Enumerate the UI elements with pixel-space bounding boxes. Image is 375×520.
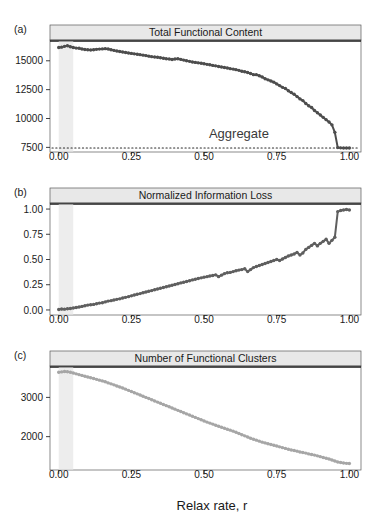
y-axis-tick-label: 1.00 — [24, 204, 44, 215]
panel-a: (a)Total Functional Content1500012500100… — [14, 23, 361, 162]
x-axis-tick-label: 0.75 — [267, 469, 287, 480]
multi-panel-figure: (a)Total Functional Content1500012500100… — [0, 0, 375, 520]
panel-strip-title: Normalized Information Loss — [139, 189, 273, 201]
x-axis-title: Relax rate, r — [177, 498, 248, 513]
y-axis-tick-label: 15000 — [15, 55, 43, 66]
y-axis-tick-label: 0.25 — [24, 279, 44, 290]
y-axis-tick-label: 10000 — [15, 113, 43, 124]
y-axis-tick-label: 0.00 — [24, 305, 44, 316]
x-axis-tick-label: 0.00 — [49, 314, 69, 325]
panel-letter: (b) — [14, 186, 27, 198]
highlight-band — [59, 205, 74, 315]
x-axis-tick-label: 0.50 — [194, 314, 214, 325]
x-axis-tick-label: 0.25 — [122, 151, 142, 162]
plot-annotation: Aggregate — [209, 126, 269, 141]
x-axis-tick-label: 1.00 — [340, 151, 360, 162]
x-axis-tick-label: 0.00 — [49, 469, 69, 480]
x-axis-tick-label: 1.00 — [340, 314, 360, 325]
y-axis-tick-label: 7500 — [21, 142, 44, 153]
panel-b: (b)Normalized Information Loss1.000.750.… — [14, 186, 361, 325]
panel-strip-title: Total Functional Content — [149, 26, 262, 38]
highlight-band — [59, 368, 74, 470]
panels-root: (a)Total Functional Content1500012500100… — [14, 23, 361, 480]
x-axis-tick-label: 0.50 — [194, 469, 214, 480]
x-axis-tick-label: 0.25 — [122, 314, 142, 325]
x-axis-tick-label: 0.25 — [122, 469, 142, 480]
x-axis-tick-label: 0.00 — [49, 151, 69, 162]
y-axis-tick-label: 2000 — [21, 431, 44, 442]
x-axis-tick-label: 1.00 — [340, 469, 360, 480]
y-axis-tick-label: 0.75 — [24, 229, 44, 240]
panel-c: (c)Number of Functional Clusters30002000… — [14, 349, 361, 480]
y-axis-tick-label: 3000 — [21, 392, 44, 403]
panel-letter: (a) — [14, 23, 27, 35]
panel-strip-title: Number of Functional Clusters — [135, 352, 277, 364]
highlight-band — [59, 42, 74, 152]
plot-frame — [50, 40, 361, 152]
x-axis-tick-label: 0.75 — [267, 314, 287, 325]
panel-letter: (c) — [14, 349, 26, 361]
x-axis-tick-label: 0.75 — [267, 151, 287, 162]
x-axis-tick-label: 0.50 — [194, 151, 214, 162]
y-axis-tick-label: 12500 — [15, 84, 43, 95]
plot-frame — [50, 203, 361, 315]
y-axis-tick-label: 0.50 — [24, 254, 44, 265]
